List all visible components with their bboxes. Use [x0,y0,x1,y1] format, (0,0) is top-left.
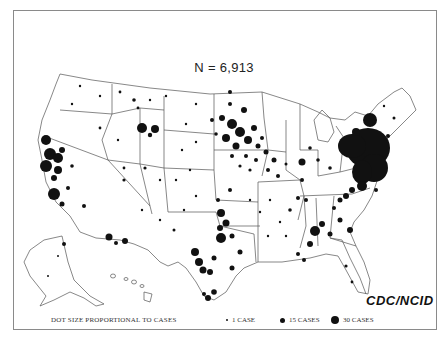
state-borders [24,74,416,306]
legend-item-30-cases: 30 CASES [331,316,374,324]
map-title: N = 6,913 [0,60,448,75]
case-dots [40,85,396,301]
legend: DOT SIZE PROPORTIONAL TO CASES 1 CASE 15… [0,316,448,328]
legend-caption: DOT SIZE PROPORTIONAL TO CASES [51,316,177,324]
legend-item-1-case: 1 CASE [226,316,255,324]
credit-label: CDC/NCID [366,293,434,308]
dot-icon-small [226,319,228,321]
legend-label: 15 CASES [289,316,320,324]
legend-label: 1 CASE [232,316,255,324]
dot-icon-medium [280,318,285,323]
dot-icon-large [331,316,339,324]
legend-item-15-cases: 15 CASES [280,316,320,324]
legend-label: 30 CASES [343,316,374,324]
